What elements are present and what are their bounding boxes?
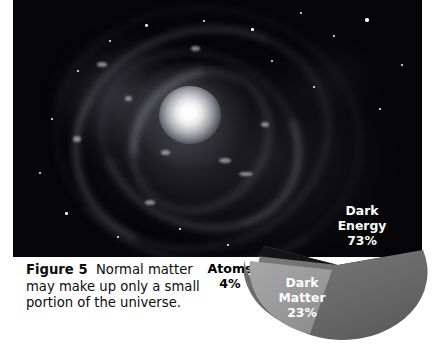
hii-region-knot bbox=[261, 122, 269, 127]
star-field-dot bbox=[117, 236, 119, 238]
figure-label: Figure 5 bbox=[26, 262, 88, 277]
pie-chart: Dark Energy 73% Dark Matter 23% bbox=[244, 182, 439, 362]
pie-label-dark-matter-line2: Matter bbox=[278, 290, 326, 305]
star-field-dot bbox=[227, 244, 229, 246]
star-field-dot bbox=[203, 20, 205, 22]
star-field-dot bbox=[401, 64, 403, 66]
figure-caption: Figure 5 Normal matter may make up only … bbox=[26, 262, 204, 312]
star-field-dot bbox=[365, 18, 369, 22]
hii-region-knot bbox=[161, 150, 170, 155]
galaxy-core bbox=[159, 86, 221, 144]
star-field-dot bbox=[39, 172, 41, 174]
star-field-dot bbox=[251, 28, 254, 31]
star-field-dot bbox=[313, 86, 315, 88]
pie-chart-svg: Dark Energy 73% Dark Matter 23% bbox=[244, 182, 439, 362]
hii-region-knot bbox=[73, 136, 81, 142]
pie-label-dark-matter-value: 23% bbox=[287, 305, 317, 320]
pie-label-dark-energy: Dark Energy 73% bbox=[338, 203, 387, 248]
pie-label-dark-energy-line2: Energy bbox=[338, 218, 387, 233]
star-field-dot bbox=[65, 212, 68, 215]
hii-region-knot bbox=[145, 200, 155, 205]
hii-region-knot bbox=[191, 46, 200, 51]
figure-page: Figure 5 Normal matter may make up only … bbox=[0, 0, 439, 362]
hii-region-knot bbox=[125, 96, 132, 101]
pie-label-dark-matter-line1: Dark bbox=[286, 275, 320, 290]
star-field-dot bbox=[145, 24, 148, 27]
hii-region-knot bbox=[219, 158, 231, 163]
star-field-dot bbox=[77, 70, 79, 72]
pie-label-dark-energy-line1: Dark bbox=[346, 203, 380, 218]
star-field-dot bbox=[300, 12, 302, 14]
hii-region-knot bbox=[239, 172, 253, 176]
hii-region-knot bbox=[97, 62, 107, 67]
pie-label-dark-energy-value: 73% bbox=[347, 233, 377, 248]
